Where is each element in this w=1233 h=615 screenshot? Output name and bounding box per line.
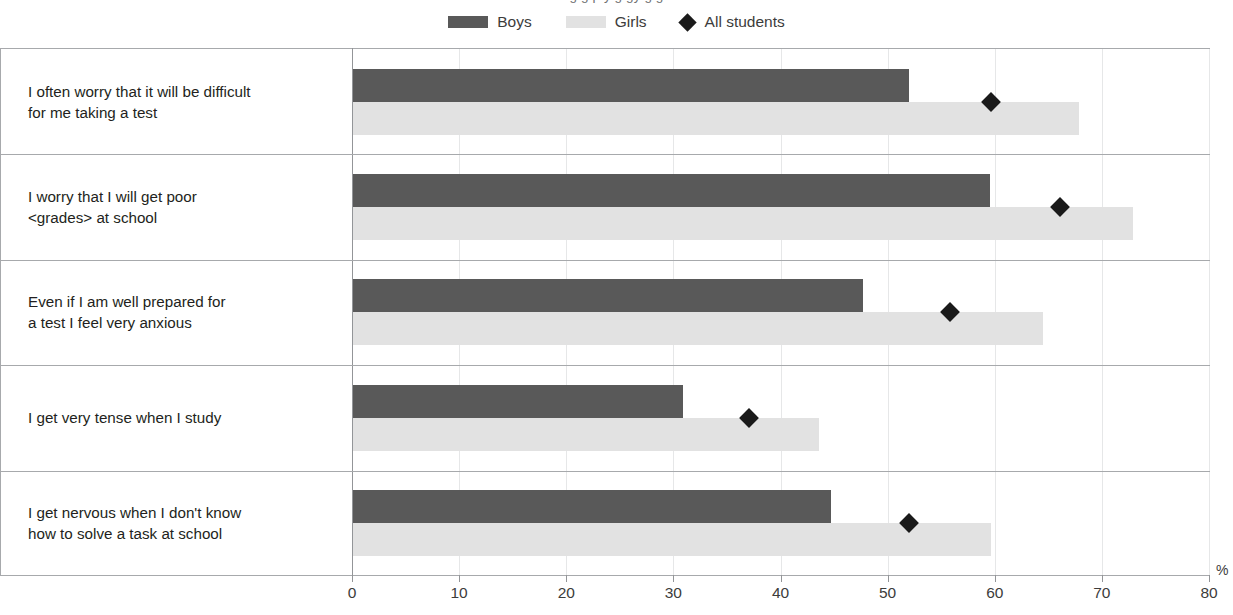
row-bars: [353, 154, 1210, 259]
x-axis-tick: [673, 575, 674, 582]
bar-boys[interactable]: [353, 69, 909, 102]
x-axis-tick: [1209, 575, 1210, 582]
x-axis-tick-label: 80: [1200, 584, 1217, 602]
bar-girls[interactable]: [353, 523, 991, 556]
x-axis-tick-label: 50: [879, 584, 896, 602]
x-axis-tick: [781, 575, 782, 582]
plot-area: I often worry that it will be difficult …: [0, 48, 1210, 576]
category-label: I often worry that it will be difficult …: [28, 49, 338, 154]
x-axis-tick: [1102, 575, 1103, 582]
x-axis-tick-label: 10: [451, 584, 468, 602]
bar-girls[interactable]: [353, 312, 1043, 345]
x-axis-tick-label: 40: [772, 584, 789, 602]
bar-swatch-light-icon: [566, 16, 606, 28]
x-axis-tick-label: 60: [986, 584, 1003, 602]
x-axis-tick-label: 20: [558, 584, 575, 602]
chart-row: I worry that I will get poor <grades> at…: [0, 154, 1210, 259]
legend-label-boys: Boys: [497, 14, 531, 30]
x-axis-tick: [352, 575, 353, 582]
chart-legend: Boys Girls All students: [0, 11, 1233, 33]
legend-item-all-students[interactable]: All students: [681, 14, 785, 30]
row-bars: [353, 471, 1210, 576]
category-label: Even if I am well prepared for a test I …: [28, 260, 338, 365]
chart-row: Even if I am well prepared for a test I …: [0, 260, 1210, 365]
row-bars: [353, 49, 1210, 154]
x-axis-tick: [566, 575, 567, 582]
x-axis-tick: [888, 575, 889, 582]
legend-item-boys[interactable]: Boys: [448, 14, 531, 30]
chart-title-text: g g p y g gy g g: [0, 0, 1233, 4]
x-axis-tick: [459, 575, 460, 582]
x-axis-unit-label: %: [1216, 562, 1228, 578]
bar-swatch-dark-icon: [448, 16, 488, 28]
category-label: I get nervous when I don't know how to s…: [28, 471, 338, 576]
legend-item-girls[interactable]: Girls: [566, 14, 647, 30]
row-bars: [353, 365, 1210, 470]
legend-label-girls: Girls: [615, 14, 647, 30]
x-axis: % 01020304050607080: [0, 575, 1233, 615]
bar-girls[interactable]: [353, 102, 1079, 135]
chart-row: I get nervous when I don't know how to s…: [0, 471, 1210, 576]
x-axis-tick: [995, 575, 996, 582]
category-label: I get very tense when I study: [28, 365, 338, 470]
legend-label-all-students: All students: [705, 14, 785, 30]
x-axis-tick-label: 70: [1093, 584, 1110, 602]
diamond-marker-icon: [678, 13, 696, 31]
chart-figure: g g p y g gy g g Boys Girls All students…: [0, 0, 1233, 615]
chart-title-clipped: g g p y g gy g g: [0, 0, 1233, 4]
chart-row: I often worry that it will be difficult …: [0, 49, 1210, 154]
bar-boys[interactable]: [353, 279, 863, 312]
bar-boys[interactable]: [353, 174, 990, 207]
bar-boys[interactable]: [353, 490, 831, 523]
chart-row: I get very tense when I study: [0, 365, 1210, 470]
row-bars: [353, 260, 1210, 365]
category-label: I worry that I will get poor <grades> at…: [28, 154, 338, 259]
x-axis-tick-label: 0: [348, 584, 357, 602]
bar-girls[interactable]: [353, 207, 1133, 240]
bar-boys[interactable]: [353, 385, 683, 418]
x-axis-tick-label: 30: [665, 584, 682, 602]
